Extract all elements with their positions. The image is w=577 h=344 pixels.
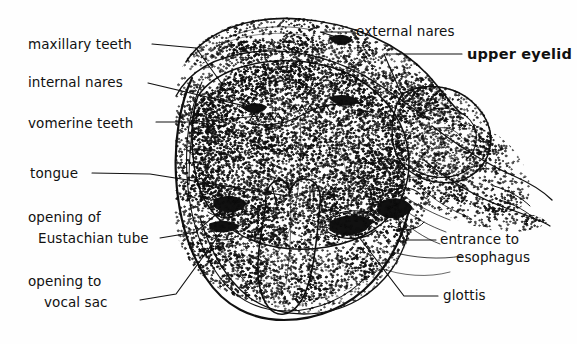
label-esophagus: esophagus: [456, 250, 530, 264]
label-opening-of: opening of: [28, 210, 101, 224]
frog-mouth-anatomy-figure: maxillary teeth internal nares vomerine …: [0, 0, 577, 344]
label-entrance-to: entrance to: [440, 232, 519, 246]
label-eustachian-tube: Eustachian tube: [38, 231, 149, 245]
label-tongue: tongue: [30, 166, 78, 180]
label-opening-to: opening to: [28, 274, 101, 288]
label-maxillary-teeth: maxillary teeth: [28, 37, 132, 51]
stipple-head: [175, 39, 561, 321]
label-vocal-sac: vocal sac: [44, 295, 108, 309]
throat-fold-1: [392, 252, 462, 258]
throat-fold-2: [380, 268, 450, 275]
label-external-nares: external nares: [356, 24, 455, 38]
label-internal-nares: internal nares: [28, 75, 123, 89]
label-glottis: glottis: [443, 288, 486, 302]
label-vomerine-teeth: vomerine teeth: [28, 116, 133, 130]
label-upper-eyelid: upper eyelid: [467, 47, 572, 62]
